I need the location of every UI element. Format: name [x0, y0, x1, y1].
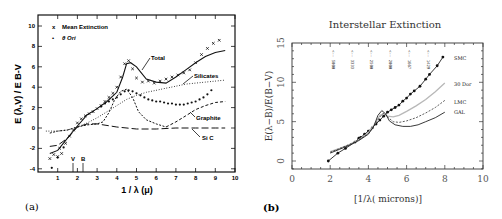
legend-label-theta-ori: θ Ori — [62, 35, 76, 41]
wavelength-annotation: <-- 2000 — [388, 50, 393, 70]
y-tick-label-a: 8 — [32, 43, 36, 49]
data-point-theta-ori — [143, 96, 145, 98]
series-line-silicates-graphite-short-dash- — [50, 89, 166, 133]
data-point-theta-ori — [159, 100, 161, 102]
wavelength-annotation: <-- 1667 — [407, 50, 412, 70]
data-point-smc — [336, 152, 339, 155]
data-point-theta-ori — [155, 100, 157, 102]
data-point-theta-ori — [128, 89, 130, 91]
data-point-theta-ori — [116, 96, 118, 98]
x-tick-label-a: 5 — [135, 175, 139, 181]
x-tick-label-a: 4 — [115, 175, 119, 181]
data-point-theta-ori — [108, 100, 110, 102]
data-point-smc — [436, 64, 439, 67]
x-tick-label-a: 6 — [155, 175, 159, 181]
data-point-mean-extinction — [60, 152, 63, 155]
wavelength-annotation: <-- 1429 — [426, 50, 431, 70]
y-axis-label-a: E (λ,V) / E B-V — [13, 64, 23, 124]
data-point-theta-ori — [167, 102, 169, 104]
data-point-theta-ori — [104, 102, 106, 104]
wavelength-annotation: <-- 2500 — [369, 50, 374, 70]
data-point-mean-extinction — [80, 118, 83, 121]
x-axis-label-a: 1 / λ (μ) — [121, 185, 153, 195]
x-tick-label-a: 9 — [214, 175, 218, 181]
wavelength-annotation: <-- 3333 — [350, 50, 355, 70]
x-tick-label-a: 10 — [232, 175, 239, 181]
y-tick-label-b: 15 — [276, 37, 286, 49]
axis-ticks-a: 12345678910-4-20246810 — [28, 15, 239, 181]
data-point-mean-extinction — [64, 142, 67, 145]
data-point-mean-extinction — [127, 59, 130, 62]
x-tick-label-b: 6 — [404, 174, 410, 184]
data-point-mean-extinction — [49, 157, 52, 160]
x-tick-label-a: 1 — [56, 175, 60, 181]
wavelength-annotation: <-- 5000 — [331, 50, 336, 70]
data-point-theta-ori — [175, 103, 177, 105]
x-tick-label-b: 2 — [327, 174, 333, 184]
legend-label-30dor: 30 Dor — [454, 81, 472, 87]
x-tick-label-a: 2 — [76, 175, 80, 181]
data-point-mean-extinction — [206, 47, 209, 50]
data-point-theta-ori — [135, 92, 137, 94]
annotation-silicates: Silicates — [194, 73, 219, 79]
data-point-smc — [401, 100, 404, 103]
legend-label-gal: GAL — [454, 109, 466, 115]
data-point-mean-extinction — [52, 153, 55, 156]
series-line-lmc — [330, 100, 445, 152]
legend-label-smc: SMC — [454, 55, 467, 61]
y-tick-label-b: 10 — [276, 76, 286, 88]
data-point-mean-extinction — [153, 82, 156, 85]
data-point-theta-ori — [147, 98, 149, 100]
panel-label-a: (a) — [25, 201, 39, 212]
series-line-silicates — [46, 80, 225, 131]
y-tick-label-a: 0 — [32, 125, 36, 131]
data-point-mean-extinction — [141, 81, 144, 84]
data-point-theta-ori — [63, 146, 65, 148]
data-point-smc — [394, 106, 397, 109]
data-point-theta-ori — [206, 93, 208, 95]
data-point-theta-ori — [112, 98, 114, 100]
marker-label-v: V — [71, 156, 75, 162]
data-point-theta-ori — [120, 93, 122, 95]
data-point-mean-extinction — [123, 62, 126, 65]
chart-panel-a: 12345678910-4-20246810 x Mean Extinction… — [13, 15, 239, 212]
x-tick-label-a: 3 — [95, 175, 99, 181]
figure: 12345678910-4-20246810 x Mean Extinction… — [0, 0, 502, 219]
plot-frame-b — [292, 43, 483, 169]
y-tick-label-b: 0 — [276, 158, 286, 164]
data-point-theta-ori — [171, 102, 173, 104]
legend-label-lmc: LMC — [454, 99, 466, 105]
legend-marker-theta-ori: • — [52, 35, 54, 41]
data-point-theta-ori — [139, 94, 141, 96]
data-point-mean-extinction — [108, 96, 111, 99]
data-point-theta-ori — [202, 96, 204, 98]
data-point-theta-ori — [151, 99, 153, 101]
y-tick-label-a: -4 — [30, 166, 36, 172]
data-point-smc — [398, 104, 401, 107]
data-point-mean-extinction — [200, 53, 203, 56]
x-tick-label-a: 7 — [174, 175, 178, 181]
x-tick-label-b: 4 — [366, 174, 372, 184]
x-tick-label-b: 8 — [442, 174, 448, 184]
data-point-theta-ori — [198, 98, 200, 100]
data-point-mean-extinction — [112, 92, 115, 95]
data-point-smc — [405, 97, 408, 100]
annotation-total: Total — [151, 55, 165, 61]
legend-marker-mean: x — [52, 24, 56, 30]
data-point-theta-ori — [179, 103, 181, 105]
data-point-theta-ori — [51, 167, 53, 169]
chart-title-b: Interstellar Extinction — [329, 19, 442, 30]
panel-label-b: (b) — [263, 202, 279, 213]
annotation-leader-total — [142, 58, 150, 70]
data-point-smc — [382, 115, 385, 118]
data-point-theta-ori — [187, 102, 189, 104]
data-point-theta-ori — [163, 101, 165, 103]
y-tick-label-a: 6 — [32, 64, 36, 70]
x-tick-label-b: 10 — [477, 174, 489, 184]
data-point-smc — [428, 73, 431, 76]
data-point-smc — [441, 56, 444, 59]
data-point-smc — [413, 90, 416, 93]
wavelength-annotations: <-- 5000<-- 3333<-- 2500<-- 2000<-- 1667… — [331, 50, 432, 70]
data-point-theta-ori — [131, 90, 133, 92]
data-point-mean-extinction — [171, 76, 174, 79]
